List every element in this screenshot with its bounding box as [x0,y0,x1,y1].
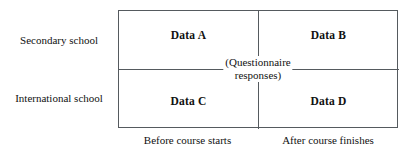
row-label-international-school: International school [4,92,114,104]
column-label-before-course-starts: Before course starts [118,134,257,146]
matrix-cell-label: Data C [170,95,206,107]
row-label-secondary-school: Secondary school [4,34,114,46]
matrix-cell-label: Data A [171,29,206,41]
matrix-cell-label: Data B [311,29,346,41]
center-caption-questionnaire-responses: (Questionnaire responses) [223,56,292,82]
matrix-cell-label: Data D [310,95,346,107]
center-caption-line-2: responses) [225,69,290,82]
center-caption-line-1: (Questionnaire [225,56,290,69]
matrix-diagram: Secondary school International school Da… [0,0,418,157]
matrix-grid: Data A Data B Data C Data D (Questionnai… [118,10,398,128]
column-label-after-course-finishes: After course finishes [258,134,398,146]
